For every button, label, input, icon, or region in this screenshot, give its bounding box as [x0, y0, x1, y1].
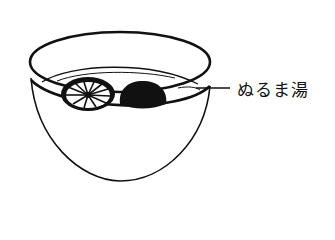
shiitake-gill-side [61, 77, 115, 111]
water-label: ぬるま湯 [237, 76, 309, 101]
bowl-body [31, 78, 210, 181]
